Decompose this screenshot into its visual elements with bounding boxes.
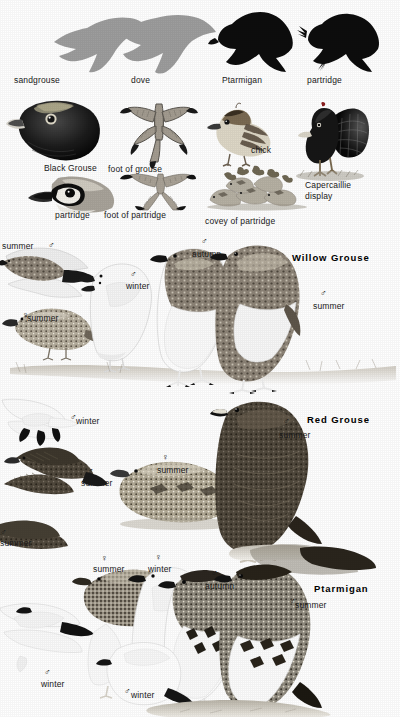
detail-label-capercaillie-display: Capercaillie display: [305, 180, 367, 202]
label-season-ptarm-2: winter: [148, 564, 172, 574]
label-sex-red-5: ♂: [0, 527, 7, 537]
label-season-ptarm-6: winter: [131, 690, 155, 700]
label-season-red-2: summer: [81, 478, 113, 488]
label-season-red-4: summer: [279, 430, 311, 440]
label-sex-willow-5: ♂: [320, 288, 327, 298]
label-season-willow-5: summer: [313, 301, 345, 311]
detail-label-chick: chick: [251, 145, 271, 155]
detail-label-covey-of-partridge: covey of partridge: [205, 216, 275, 226]
label-sex-ptarm-2: ♀: [155, 552, 162, 562]
label-sex-red-3: ♀: [162, 452, 169, 462]
illustration-ptarmigan-group: [0, 548, 400, 717]
detail-label-foot-of-partridge: foot of partridge: [104, 210, 166, 220]
silhouette-label-sandgrouse: sandgrouse: [14, 75, 60, 85]
label-season-red-3: summer: [157, 465, 189, 475]
species-title-willow-grouse: Willow Grouse: [292, 252, 370, 263]
detail-label-black-grouse: Black Grouse: [44, 163, 97, 173]
label-sex-willow-1: ♂: [48, 240, 55, 250]
species-title-red-grouse: Red Grouse: [307, 414, 370, 425]
label-season-red-1: winter: [76, 416, 100, 426]
illustration-black-grouse-head: [6, 98, 104, 164]
illustration-chick: [200, 104, 274, 166]
bird-identification-plate: sandgrouse dove Ptarmigan partridge: [0, 0, 400, 717]
label-sex-red-4: ♂: [283, 416, 290, 426]
illustration-foot-of-grouse: [120, 100, 198, 164]
illustration-covey-of-partridge: [202, 166, 312, 210]
label-sex-ptarm-1: ♀: [101, 553, 108, 563]
label-sex-willow-4: ♂: [201, 236, 208, 246]
detail-label-partridge-head: partridge: [55, 210, 90, 220]
silhouette-label-ptarmigan: Ptarmigan: [222, 75, 262, 85]
label-sex-ptarm-3: ♂: [211, 568, 218, 578]
silhouette-ptarmigan: [208, 8, 303, 76]
label-season-ptarm-5: winter: [41, 679, 65, 689]
label-season-willow-4: autumn: [192, 249, 221, 259]
illustration-foot-of-partridge: [120, 168, 196, 212]
label-sex-ptarm-5: ♂: [44, 667, 51, 677]
label-season-willow-1: summer: [2, 241, 34, 251]
label-season-willow-2: winter: [126, 281, 150, 291]
label-sex-ptarm-6: ♂: [124, 686, 131, 696]
label-season-ptarm-4: summer: [295, 600, 327, 610]
silhouette-partridge: [296, 10, 388, 74]
label-season-willow-3: summer: [27, 313, 59, 323]
label-sex-red-2: ♂: [87, 466, 94, 476]
silhouette-label-partridge: partridge: [307, 75, 342, 85]
label-season-ptarm-3: autumn: [205, 581, 234, 591]
label-sex-willow-2: ♂: [130, 269, 137, 279]
species-title-ptarmigan: Ptarmigan: [314, 583, 369, 594]
label-season-red-5: summer: [0, 538, 32, 548]
silhouette-label-dove: dove: [131, 75, 150, 85]
label-season-ptarm-1: summer: [93, 564, 125, 574]
